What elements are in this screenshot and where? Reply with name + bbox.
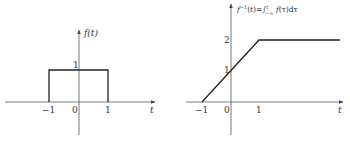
right-x-label: t [338, 105, 342, 115]
right-chart: f−1(t)=∫t−∞ f(τ)dτ t 2 1 −1 0 1 [186, 4, 343, 135]
left-y-label: f(t) [83, 28, 98, 38]
left-xtick-0: 0 [72, 105, 78, 115]
right-xtick-0: 0 [224, 105, 230, 115]
left-ytick-1: 1 [73, 60, 79, 70]
right-ytick-1: 1 [224, 65, 230, 75]
diagram-canvas: f(t) t 1 −1 0 1 f−1(t)=∫t−∞ f(τ)dτ t 2 1… [0, 0, 350, 142]
right-ytick-2: 2 [224, 35, 230, 45]
right-xtick-1: 1 [256, 105, 262, 115]
left-xtick-1: 1 [105, 105, 111, 115]
left-chart: f(t) t 1 −1 0 1 [5, 28, 155, 135]
integral-curve [202, 40, 340, 102]
rect-pulse-curve [49, 70, 108, 102]
left-x-label: t [150, 105, 154, 115]
right-y-label: f−1(t)=∫t−∞ f(τ)dτ [236, 4, 298, 16]
right-xtick-neg1: −1 [195, 105, 208, 115]
left-xtick-neg1: −1 [42, 105, 55, 115]
